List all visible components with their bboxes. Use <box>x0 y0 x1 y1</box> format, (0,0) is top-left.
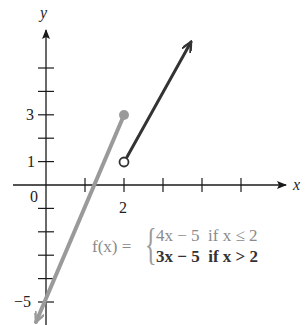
formula-brace: { <box>145 223 157 267</box>
y-tick-label-1: 1 <box>27 153 35 170</box>
y-tick-label-neg5: −5 <box>14 293 31 310</box>
closed-dot <box>119 110 129 120</box>
x-tick-label-2: 2 <box>119 199 127 216</box>
piecewise-formula: f(x) = { 4x − 5 if x ≤ 2 3x − 5 if x > 2 <box>92 225 306 275</box>
piece2-line <box>127 42 191 157</box>
formula-case-2: 3x − 5 if x > 2 <box>156 247 258 267</box>
origin-label: 0 <box>30 188 38 205</box>
y-tick-label-3: 3 <box>26 106 34 123</box>
x-axis-label: x <box>292 176 300 193</box>
open-circle <box>120 158 129 167</box>
piecewise-graph: y x 0 2 3 1 −5 <box>0 0 308 325</box>
formula-lhs: f(x) = <box>92 237 131 257</box>
piece1-line <box>36 115 124 322</box>
y-axis-label: y <box>38 4 48 22</box>
formula-case-1: 4x − 5 if x ≤ 2 <box>156 226 258 246</box>
